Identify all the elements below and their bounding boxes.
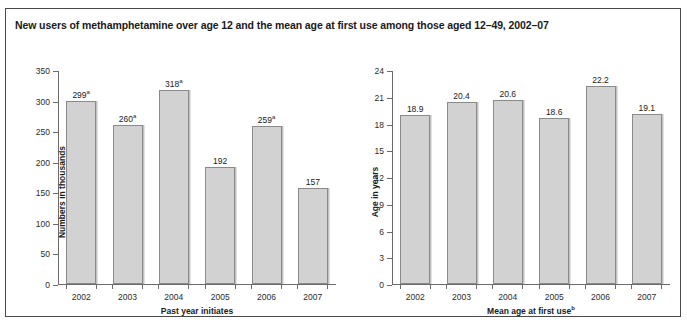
bar-value-footnote: a: [87, 89, 90, 95]
y-axis-line-right: [392, 71, 393, 285]
x-tick-mark: [631, 285, 632, 289]
bar-2002: 299a: [66, 101, 96, 284]
y-tick-label: 350: [36, 66, 50, 76]
x-tick-mark: [142, 285, 143, 289]
y-tick-mark: [387, 178, 392, 179]
x-tick-mark: [188, 285, 189, 289]
y-tick-label: 24: [375, 66, 384, 76]
x-tick-label-2004: 2004: [164, 292, 183, 302]
y-tick-label: 250: [36, 127, 50, 137]
bar-2006: 22.2: [586, 86, 616, 284]
x-axis-title-left: Past year initiates: [58, 305, 336, 316]
x-tick-mark: [476, 285, 477, 289]
x-tick-mark: [205, 285, 206, 289]
y-tick-mark: [387, 205, 392, 206]
x-tick-mark: [539, 285, 540, 289]
x-tick-mark: [251, 285, 252, 289]
x-tick-label-2007: 2007: [303, 292, 322, 302]
y-tick-label: 12: [375, 173, 384, 183]
bar-value-footnote: a: [272, 114, 275, 120]
x-tick-label-2003: 2003: [118, 292, 137, 302]
x-tick-mark: [585, 285, 586, 289]
y-tick-mark: [53, 163, 58, 164]
x-axis-title-right-footnote: b: [571, 305, 575, 311]
bar-2002: 18.9: [400, 115, 430, 284]
x-axis-title-right-text: Mean age at first use: [487, 306, 571, 316]
plot-area-left: 050100150200250300350299a2002260a2003318…: [58, 71, 336, 285]
x-tick-label-2004: 2004: [498, 292, 517, 302]
x-tick-mark: [400, 285, 401, 289]
x-tick-mark: [112, 285, 113, 289]
y-tick-mark: [53, 102, 58, 103]
y-tick-label: 200: [36, 158, 50, 168]
bar-2004: 318a: [159, 90, 189, 284]
x-tick-label-2003: 2003: [452, 292, 471, 302]
y-tick-mark: [53, 224, 58, 225]
y-tick-mark: [387, 258, 392, 259]
y-tick-mark: [387, 98, 392, 99]
bar-value-label: 260a: [119, 113, 137, 124]
bar-value-footnote: a: [133, 113, 136, 119]
y-tick-label: 100: [36, 219, 50, 229]
x-tick-mark: [615, 285, 616, 289]
y-tick-label: 300: [36, 97, 50, 107]
y-tick-mark: [387, 151, 392, 152]
y-tick-mark: [387, 232, 392, 233]
bar-2007: 157: [298, 188, 328, 284]
bar-2003: 260a: [113, 125, 143, 284]
x-tick-mark: [492, 285, 493, 289]
plot-area-right: 0369121518212418.9200220.4200320.6200418…: [392, 71, 670, 285]
bar-2005: 18.6: [539, 118, 569, 284]
x-tick-mark: [327, 285, 328, 289]
x-tick-mark: [430, 285, 431, 289]
x-tick-mark: [96, 285, 97, 289]
bar-value-label: 20.4: [453, 91, 470, 101]
y-tick-mark: [387, 71, 392, 72]
x-tick-mark: [235, 285, 236, 289]
bar-value-label: 19.1: [639, 103, 656, 113]
y-tick-mark: [53, 254, 58, 255]
bar-value-footnote: a: [179, 78, 182, 84]
y-tick-mark: [53, 193, 58, 194]
x-tick-mark: [158, 285, 159, 289]
y-tick-label: 50: [41, 249, 50, 259]
x-tick-label-2006: 2006: [591, 292, 610, 302]
y-tick-label: 15: [375, 146, 384, 156]
y-axis-line-left: [58, 71, 59, 285]
y-tick-mark: [53, 132, 58, 133]
bar-value-label: 20.6: [500, 89, 517, 99]
x-tick-label-2006: 2006: [257, 292, 276, 302]
bar-value-label: 22.2: [592, 75, 609, 85]
figure-frame: New users of methamphetamine over age 12…: [5, 8, 681, 317]
y-tick-label: 150: [36, 188, 50, 198]
x-tick-label-2002: 2002: [72, 292, 91, 302]
x-tick-mark: [281, 285, 282, 289]
y-tick-label: 9: [379, 200, 384, 210]
y-tick-mark: [387, 125, 392, 126]
figure-title: New users of methamphetamine over age 12…: [15, 19, 549, 31]
x-tick-mark: [297, 285, 298, 289]
x-tick-label-2007: 2007: [637, 292, 656, 302]
chart-panel-past-year-initiates: Numbers in thousands 0501001502002503003…: [12, 61, 348, 323]
y-tick-mark: [53, 285, 58, 286]
y-tick-label: 18: [375, 120, 384, 130]
y-tick-mark: [53, 71, 58, 72]
x-axis-line-right: [392, 284, 670, 285]
bar-2007: 19.1: [632, 114, 662, 284]
x-tick-label-2002: 2002: [406, 292, 425, 302]
bar-value-label: 157: [306, 177, 320, 187]
bar-value-label: 299a: [72, 89, 90, 100]
x-axis-title-right: Mean age at first useb: [392, 305, 670, 316]
bar-2006: 259a: [252, 126, 282, 284]
bar-value-label: 18.9: [407, 104, 424, 114]
x-tick-label-2005: 2005: [211, 292, 230, 302]
x-axis-title-left-text: Past year initiates: [161, 306, 233, 316]
y-tick-label: 0: [45, 280, 50, 290]
x-axis-line-left: [58, 284, 336, 285]
y-tick-label: 0: [379, 280, 384, 290]
bar-value-label: 18.6: [546, 107, 563, 117]
x-tick-mark: [446, 285, 447, 289]
y-tick-label: 21: [375, 93, 384, 103]
x-tick-mark: [522, 285, 523, 289]
y-tick-label: 3: [379, 253, 384, 263]
